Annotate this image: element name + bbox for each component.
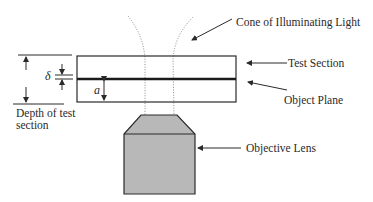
test-section-label: Test Section <box>288 57 344 69</box>
label-arrows <box>192 19 287 148</box>
objective-lens-label: Objective Lens <box>246 142 316 154</box>
depth-label-line1: Depth of test <box>16 107 75 119</box>
test-section <box>77 56 236 102</box>
depth-label-line2: section <box>16 119 49 131</box>
objective-lens <box>124 115 195 194</box>
object-plane-label: Object Plane <box>284 94 343 106</box>
delta-symbol: δ <box>45 70 51 82</box>
object-plane-arrow <box>248 82 287 90</box>
diagram: Cone of Illuminating Light Test Section … <box>0 0 373 202</box>
cone-of-light <box>128 16 193 115</box>
cone-arrow <box>192 19 232 40</box>
cone-label: Cone of Illuminating Light <box>236 16 360 28</box>
a-symbol: a <box>94 84 100 96</box>
delta-dimension <box>55 64 73 90</box>
